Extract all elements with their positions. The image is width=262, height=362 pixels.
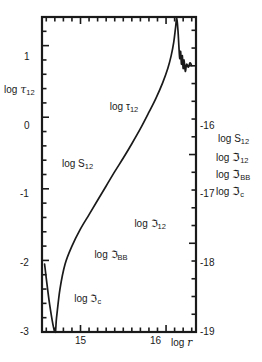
left-axis-title-prefix: log <box>4 84 20 95</box>
right-tick-label-neg17: -17 <box>200 189 214 199</box>
left-tick-label-neg1: -1 <box>20 189 29 199</box>
j12-curve-label: log ℑ12 <box>134 219 165 231</box>
jbb-curve-label: log ℑBB <box>94 250 127 262</box>
plot-frame <box>42 17 196 332</box>
x-axis-title: log r <box>171 336 192 348</box>
axis-ticks <box>42 17 196 332</box>
left-tick-label-neg3: -3 <box>20 327 29 337</box>
right-tick-label-neg16: -16 <box>200 121 214 131</box>
tau12-curve-label: log τ12 <box>110 102 138 114</box>
left-axis-title: log τ12 <box>4 83 35 97</box>
left-tick-label-neg2: -2 <box>20 258 29 268</box>
x-axis-title-symbol: r <box>187 336 192 348</box>
right-axis-title-j12: log ℑ12 <box>216 151 248 165</box>
left-tick-label-1: 1 <box>24 52 30 62</box>
s12-curve-label: log S12 <box>62 159 93 171</box>
right-tick-label-neg19: -19 <box>200 327 214 337</box>
right-tick-label-neg18: -18 <box>200 258 214 268</box>
figure-container: log τ12 1 0 -1 -2 -3 -16 -17 -18 -19 15 … <box>0 0 262 362</box>
jc-curve-label: log ℑc <box>74 294 101 306</box>
right-axis-title-jc: log ℑc <box>216 185 244 199</box>
curve-1 <box>45 18 192 332</box>
x-tick-label-16: 16 <box>150 336 161 346</box>
left-tick-label-0: 0 <box>24 121 30 131</box>
right-axis-title-s12: log S12 <box>218 133 249 146</box>
right-axis-title-jbb: log ℑBB <box>216 168 250 182</box>
x-axis-title-prefix: log <box>171 337 187 348</box>
x-tick-label-15: 15 <box>75 336 86 346</box>
left-axis-title-sub: 12 <box>26 88 34 97</box>
